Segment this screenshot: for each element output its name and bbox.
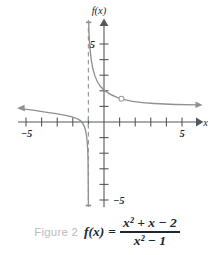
formula-fraction: x² + x − 2 x² − 1 — [120, 216, 180, 248]
figure-container: f(x) x −5 5 5 −5 Figure 2 f(x) = x² + x … — [0, 0, 214, 255]
x-axis-label: x — [202, 117, 208, 128]
figure-caption: Figure 2 f(x) = x² + x − 2 x² − 1 — [0, 212, 214, 255]
y-axis-label: f(x) — [92, 5, 107, 17]
removable-discontinuity-open-circle — [119, 96, 124, 101]
curve-left-arrowhead — [17, 105, 25, 111]
curve-right-arrowhead — [196, 102, 203, 108]
figure-formula: f(x) = x² + x − 2 x² − 1 — [84, 216, 180, 248]
curve-right-branch — [89, 23, 198, 105]
graph-plot-area: f(x) x −5 5 5 −5 — [0, 0, 214, 214]
formula-lhs: f(x) — [84, 224, 104, 240]
y-tick-label-minus-5: −5 — [113, 195, 125, 206]
formula-denominator: x² − 1 — [131, 234, 169, 248]
function-graph-svg: f(x) x −5 5 5 −5 — [0, 0, 214, 214]
x-tick-label-minus-5: −5 — [21, 128, 33, 139]
x-tick-label-5: 5 — [179, 128, 184, 139]
y-tick-label-5: 5 — [90, 39, 95, 50]
curve-left-branch — [21, 109, 89, 206]
formula-equals-sign: = — [108, 224, 116, 240]
y-axis-arrowhead — [100, 19, 109, 27]
formula-numerator: x² + x − 2 — [120, 216, 180, 230]
figure-number-label: Figure 2 — [34, 226, 78, 238]
